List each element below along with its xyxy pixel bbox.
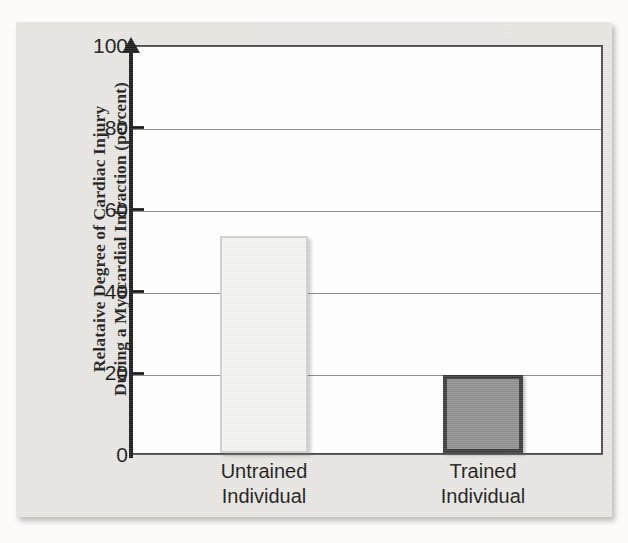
x-tick-label-trained-line-1: Trained	[393, 459, 573, 484]
figure-card: Relataive Degree of Cardiac Injury Durin…	[16, 22, 612, 517]
y-tick-label-0: 0	[84, 444, 128, 465]
y-tick-mark-20	[129, 372, 144, 375]
plot-inner	[129, 47, 601, 453]
y-axis-tick-labels: 100 80 60 40 20 0	[80, 22, 128, 517]
y-tick-label-80: 80	[84, 117, 128, 138]
gridline-60	[129, 211, 601, 212]
plot-area	[129, 45, 603, 455]
gridline-20	[129, 375, 601, 376]
y-tick-mark-80	[129, 126, 144, 129]
x-tick-label-untrained-line-2: Individual	[174, 484, 354, 509]
y-tick-mark-40	[129, 290, 144, 293]
x-axis-tick-labels: Untrained Individual Trained Individual	[129, 459, 603, 515]
y-tick-label-20: 20	[84, 362, 128, 383]
x-tick-label-untrained-line-1: Untrained	[174, 459, 354, 484]
figure-root: Relataive Degree of Cardiac Injury Durin…	[0, 0, 628, 543]
gridline-40	[129, 293, 601, 294]
bar-trained-individual	[443, 375, 523, 453]
x-tick-label-trained-individual: Trained Individual	[393, 459, 573, 509]
x-tick-label-trained-line-2: Individual	[393, 484, 573, 509]
x-tick-label-untrained-individual: Untrained Individual	[174, 459, 354, 509]
y-axis-line	[129, 49, 133, 458]
bar-untrained-individual	[220, 236, 308, 453]
y-tick-mark-60	[129, 208, 144, 211]
y-tick-label-40: 40	[84, 281, 128, 302]
y-tick-label-60: 60	[84, 199, 128, 220]
y-axis-arrow-icon	[122, 37, 140, 53]
gridline-80	[129, 129, 601, 130]
